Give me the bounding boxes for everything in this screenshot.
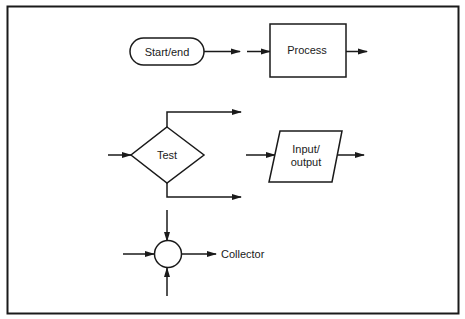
flowchart-diagram: Start/end Process Test Input/ output Col…: [0, 0, 465, 319]
test-symbol: Test: [131, 127, 204, 183]
input-output-symbol: Input/ output: [269, 131, 342, 182]
process-symbol: Process: [270, 24, 346, 77]
io-label-line1: Input/: [292, 143, 320, 155]
test-yes-arrow: [167, 112, 241, 127]
start-end-label: Start/end: [145, 46, 190, 58]
frame-border: [8, 7, 459, 314]
start-end-symbol: Start/end: [130, 38, 204, 65]
test-no-arrow: [167, 183, 241, 197]
collector-symbol: [155, 241, 182, 268]
collector-label: Collector: [221, 248, 265, 260]
test-label: Test: [157, 149, 177, 161]
process-label: Process: [287, 44, 327, 56]
io-label-line2: output: [291, 156, 322, 168]
